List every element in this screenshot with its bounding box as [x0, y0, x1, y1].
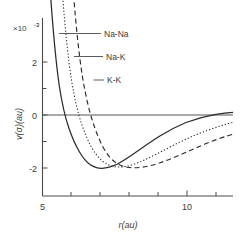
exponent-power: -3 [34, 22, 40, 28]
legend-leader-lines [59, 34, 104, 81]
legend-label-k-k: K-K [107, 75, 122, 85]
x-axis-ticks [43, 191, 217, 197]
y-scale-exponent: ×10 -3 [13, 22, 40, 33]
legend-label-na-na: Na-Na [104, 29, 129, 39]
curve-k-k [74, 0, 234, 168]
legend-label-na-k: Na-K [106, 52, 126, 62]
y-tick-label-0: 0 [32, 111, 37, 121]
potential-curves [51, 0, 234, 168]
x-tick-label-5: 5 [40, 202, 45, 212]
y-axis-title: v(σ)(au) [14, 108, 24, 140]
x-axis-title: r(au) [118, 220, 137, 230]
curve-na-na [51, 0, 234, 168]
y-axis-ticks [43, 62, 48, 168]
potential-curve-figure: 2 0 -2 5 10 ×10 -3 v(σ)(au) r(au) [0, 0, 247, 244]
x-tick-label-10: 10 [182, 202, 192, 212]
curve-na-k [63, 0, 234, 167]
y-tick-label-2: 2 [32, 58, 37, 68]
y-tick-label-m2: -2 [29, 164, 37, 174]
exponent-mantissa: ×10 [13, 24, 27, 33]
plot-canvas: 2 0 -2 5 10 ×10 -3 v(σ)(au) r(au) [0, 0, 247, 244]
axis-spines [43, 18, 234, 196]
